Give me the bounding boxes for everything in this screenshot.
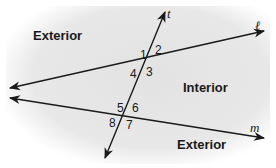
diagram-lines (0, 0, 276, 168)
line-t-label: t (167, 6, 171, 22)
line-l-label: ℓ (255, 18, 260, 34)
angle-2: 2 (155, 44, 162, 56)
angle-5: 5 (117, 102, 124, 114)
interior-label: Interior (183, 80, 228, 95)
angle-4: 4 (130, 68, 137, 80)
line-m-label: m (250, 120, 259, 136)
exterior-top-label: Exterior (33, 28, 82, 43)
angle-3: 3 (146, 66, 153, 78)
angle-8: 8 (109, 117, 116, 129)
angle-1: 1 (140, 49, 147, 61)
diagram: Exterior Interior Exterior t ℓ m 1 2 3 4… (0, 0, 276, 168)
exterior-bottom-label: Exterior (177, 137, 226, 152)
angle-6: 6 (132, 102, 139, 114)
angle-7: 7 (126, 119, 133, 131)
